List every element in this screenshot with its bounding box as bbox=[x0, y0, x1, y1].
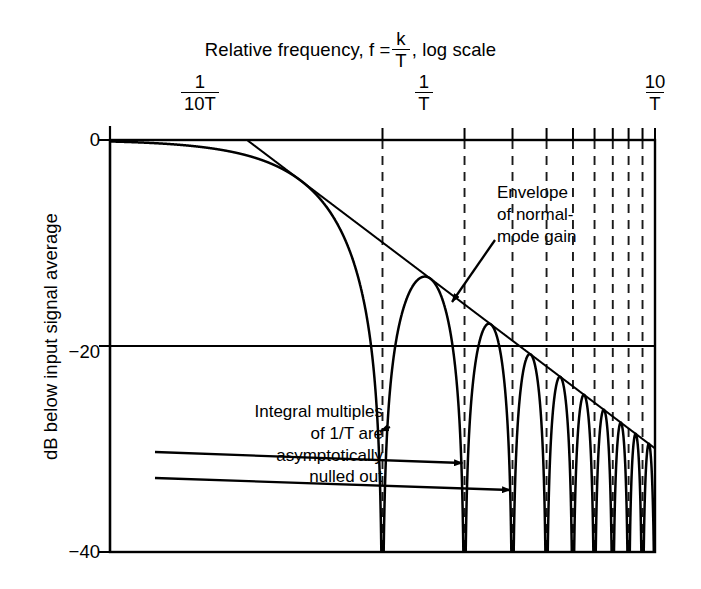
plot-area bbox=[0, 0, 701, 589]
arrow-to-null-2-over-T bbox=[155, 452, 463, 463]
figure-sinc-frequency-response: Relative frequency, f =kT, log scale 1 1… bbox=[0, 0, 701, 589]
arrow-to-envelope bbox=[452, 240, 495, 302]
arrow-to-null-3-over-T bbox=[155, 478, 511, 490]
annotation-arrows bbox=[155, 240, 511, 490]
